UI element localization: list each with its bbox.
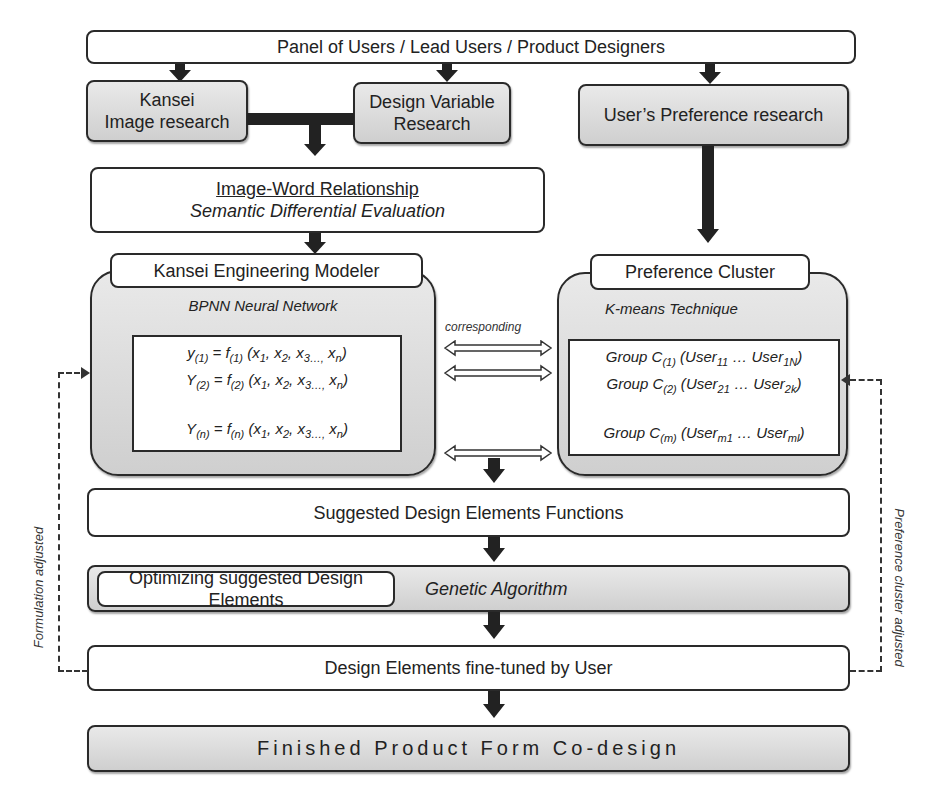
suggested-design-elements-box: Suggested Design Elements Functions — [87, 488, 850, 537]
bpnn-label: BPNN Neural Network — [90, 297, 436, 314]
image-word-title: Image-Word Relationship — [216, 178, 419, 200]
optimizing-label: Optimizing suggested Design Elements — [99, 567, 393, 611]
preference-feedback-line — [850, 379, 882, 672]
preference-cluster-label-box: Preference Cluster — [590, 254, 810, 290]
group-row: Group C(1) (User11 … User1N) — [606, 346, 803, 373]
k-means-label: K-means Technique — [605, 300, 738, 317]
design-variable-label: Design Variable — [369, 91, 495, 113]
suggested-label: Suggested Design Elements Functions — [313, 502, 623, 524]
group-row: Group C(m) (Userm1 … Userml) — [604, 422, 805, 449]
user-preference-label: User’s Preference research — [604, 104, 823, 126]
kansei-modeler-label: Kansei Engineering Modeler — [153, 260, 379, 282]
preference-cluster-label: Preference Cluster — [625, 261, 775, 283]
formula-row: y(1) = f(1) (x1, x2, x3…, xn) — [187, 342, 346, 369]
arrow-right-icon — [81, 367, 90, 379]
design-variable-research-box: Design Variable Research — [353, 82, 511, 144]
fine-tuned-box: Design Elements fine-tuned by User — [87, 645, 850, 691]
formulation-adjusted-label: Formulation adjusted — [31, 527, 46, 648]
formula-box: y(1) = f(1) (x1, x2, x3…, xn) Y(2) = f(2… — [132, 335, 402, 452]
kansei-image-research-box: Kansei Image research — [86, 80, 248, 142]
image-research-label: Image research — [104, 111, 229, 133]
group-row: Group C(2) (User21 … User2k) — [607, 373, 802, 400]
formula-row: Y(n) = f(n) (x1, x2, x3…, xn) — [186, 418, 348, 445]
formula-row: Y(2) = f(2) (x1, x2, x3…, xn) — [186, 369, 348, 396]
image-word-relationship-box: Image-Word Relationship Semantic Differe… — [90, 167, 545, 233]
fine-tuned-label: Design Elements fine-tuned by User — [324, 657, 612, 679]
formulation-feedback-line — [58, 372, 88, 672]
preference-cluster-adjusted-label: Preference cluster adjusted — [892, 508, 907, 666]
group-box: Group C(1) (User11 … User1N) Group C(2) … — [568, 339, 840, 456]
genetic-algorithm-box: Optimizing suggested Design Elements Gen… — [87, 565, 850, 612]
double-arrow-icon — [440, 340, 556, 470]
kansei-label: Kansei — [139, 89, 194, 111]
genetic-algorithm-label: Genetic Algorithm — [425, 578, 567, 600]
semantic-differential-label: Semantic Differential Evaluation — [190, 200, 445, 222]
panel-of-users-label: Panel of Users / Lead Users / Product De… — [277, 36, 665, 58]
finished-product-box: Finished Product Form Co-design — [87, 725, 850, 772]
research-label: Research — [393, 113, 470, 135]
arrow-left-icon — [841, 374, 850, 386]
optimizing-box: Optimizing suggested Design Elements — [97, 571, 395, 607]
corresponding-label: corresponding — [445, 320, 521, 334]
finished-label: Finished Product Form Co-design — [257, 737, 680, 760]
kansei-modeler-label-box: Kansei Engineering Modeler — [110, 253, 423, 288]
panel-of-users-box: Panel of Users / Lead Users / Product De… — [86, 30, 856, 64]
user-preference-research-box: User’s Preference research — [578, 84, 849, 146]
